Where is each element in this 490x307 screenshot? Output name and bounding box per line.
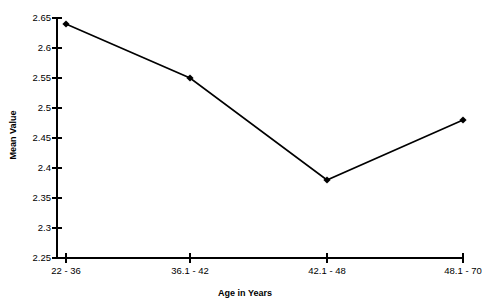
data-point-marker bbox=[459, 116, 466, 123]
data-point-marker bbox=[62, 20, 69, 27]
line-chart: Mean Value 2.652.62.552.52.452.42.352.32… bbox=[0, 0, 490, 307]
x-axis-tick-label: 42.1 - 48 bbox=[308, 265, 346, 276]
data-series bbox=[62, 20, 466, 183]
series-line bbox=[66, 24, 463, 180]
x-axis-tick-label: 48.1 - 70 bbox=[444, 265, 482, 276]
x-axis-tick-label: 36.1 - 42 bbox=[171, 265, 209, 276]
plot-area bbox=[0, 0, 490, 307]
x-axis-tick-label: 22 - 36 bbox=[51, 265, 81, 276]
axes bbox=[52, 17, 464, 263]
x-axis-title: Age in Years bbox=[0, 288, 490, 298]
